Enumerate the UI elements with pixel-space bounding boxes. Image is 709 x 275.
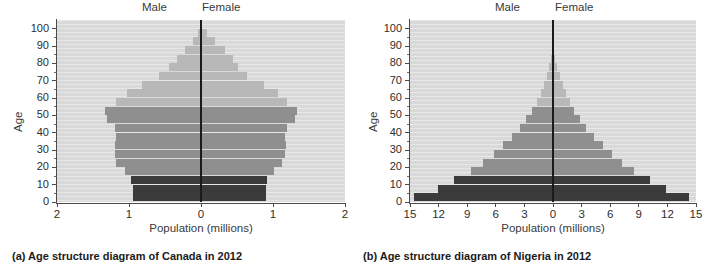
y-axis-label: 40 [19, 126, 49, 138]
pyramid-bar-female [201, 185, 266, 193]
y-axis-minor-tick [407, 89, 410, 90]
y-axis-tick [52, 167, 56, 168]
pyramid-bar-male [177, 55, 201, 63]
x-axis-label: 3 [509, 208, 539, 220]
y-axis-minor-tick [407, 37, 410, 38]
pyramid-bar-female [201, 167, 274, 175]
pyramid-bar-male [159, 72, 201, 80]
x-axis-tick [610, 203, 611, 207]
pyramid-bar-female [553, 176, 650, 184]
pyramid-bar-female [553, 98, 570, 106]
pyramid-bar-female [201, 98, 287, 106]
y-axis-minor-tick [407, 193, 410, 194]
y-axis-minor-tick [407, 72, 410, 73]
pyramid-bar-female [553, 150, 612, 158]
y-axis-tick [405, 184, 409, 185]
pyramid-bar-male [471, 167, 553, 175]
x-axis-label: 6 [481, 208, 511, 220]
pyramid-bar-female [553, 72, 560, 80]
y-axis-minor-tick [407, 54, 410, 55]
x-axis-label: 12 [652, 208, 682, 220]
y-axis-label: 50 [372, 108, 402, 120]
caption-nigeria: (b) Age structure diagram of Nigeria in … [363, 250, 591, 262]
pyramid-bar-female [201, 81, 264, 89]
pyramid-bar-female [201, 37, 215, 45]
panel-nigeria: Male Female Age 0102030405060708090100 1… [355, 0, 709, 275]
y-axis-tick [405, 63, 409, 64]
pyramid-bar-male [512, 133, 553, 141]
pyramid-bar-female [201, 46, 225, 54]
y-axis-tick [405, 202, 409, 203]
pyramid-bar-female [201, 29, 207, 37]
pyramid-bar-female [553, 124, 586, 132]
pyramid-bar-male [125, 167, 201, 175]
y-axis-tick [405, 115, 409, 116]
pyramid-bar-female [553, 133, 594, 141]
pyramid-bar-male [520, 124, 553, 132]
x-axis-tick [696, 203, 697, 207]
pyramid-bar-female [201, 55, 233, 63]
x-axis-label: 15 [681, 208, 709, 220]
pyramid-bar-male [115, 150, 201, 158]
pyramid-bar-female [201, 150, 285, 158]
y-axis-minor-tick [407, 106, 410, 107]
pyramid-bar-female [553, 115, 580, 123]
pyramid-bar-female [201, 63, 238, 71]
y-axis-tick [52, 63, 56, 64]
x-axis-tick [524, 203, 525, 207]
population-pyramid-figure: Male Female Age 0102030405060708090100 2… [0, 0, 709, 275]
y-axis-label: 30 [19, 143, 49, 155]
pyramid-bar-female [201, 141, 286, 149]
y-axis-tick [52, 98, 56, 99]
pyramid-bar-male [438, 185, 553, 193]
x-axis-title-nigeria: Population (millions) [410, 222, 696, 234]
y-axis-label: 0 [372, 195, 402, 207]
pyramid-bar-female [201, 115, 295, 123]
y-axis-label: 50 [19, 108, 49, 120]
y-axis-minor-tick [54, 89, 57, 90]
x-axis-label: 0 [538, 208, 568, 220]
y-axis-minor-tick [54, 54, 57, 55]
y-axis-minor-tick [54, 124, 57, 125]
y-axis-tick [405, 167, 409, 168]
y-axis-tick [52, 80, 56, 81]
pyramid-bar-male [116, 159, 201, 167]
x-axis-label: 15 [395, 208, 425, 220]
y-axis-line-canada [56, 19, 57, 204]
pyramid-bar-female [553, 185, 666, 193]
pyramid-bar-male [185, 46, 201, 54]
y-axis-minor-tick [54, 176, 57, 177]
y-axis-tick [405, 28, 409, 29]
y-axis-minor-tick [407, 124, 410, 125]
pyramid-bar-female [201, 159, 282, 167]
y-axis-minor-tick [54, 141, 57, 142]
pyramid-bar-male [483, 159, 553, 167]
x-axis-tick [438, 203, 439, 207]
x-axis-label: 12 [424, 208, 454, 220]
y-axis-label: 40 [372, 126, 402, 138]
pyramid-bar-male [541, 89, 553, 97]
y-axis-minor-tick [54, 193, 57, 194]
x-axis-label: 9 [624, 208, 654, 220]
pyramid-bar-female [553, 81, 563, 89]
pyramid-bar-male [115, 141, 201, 149]
x-axis-label: 6 [595, 208, 625, 220]
x-axis-tick [57, 203, 58, 207]
x-axis-title-canada: Population (millions) [57, 222, 345, 234]
pyramid-bar-male [116, 98, 201, 106]
pyramid-bar-male [454, 176, 553, 184]
x-axis-tick [553, 203, 554, 207]
y-axis-tick [52, 115, 56, 116]
x-axis-label: 0 [186, 208, 216, 220]
y-axis-label: 60 [19, 91, 49, 103]
y-axis-tick [405, 132, 409, 133]
pyramid-bar-male [116, 133, 201, 141]
x-axis-label: 9 [452, 208, 482, 220]
pyramid-bar-female [201, 107, 297, 115]
pyramid-bar-female [553, 141, 603, 149]
y-axis-label: 80 [372, 56, 402, 68]
y-axis-minor-tick [54, 106, 57, 107]
y-axis-tick [52, 46, 56, 47]
x-axis-tick [201, 203, 202, 207]
y-axis-minor-tick [407, 158, 410, 159]
